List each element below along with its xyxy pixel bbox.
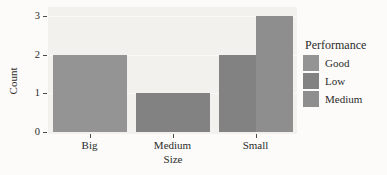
y-axis-title: Count [7, 68, 19, 95]
y-tick-mark-1 [43, 93, 47, 94]
legend-item-good: Good [303, 54, 387, 72]
y-tick-mark-0 [43, 132, 47, 133]
legend-title: Performance [305, 39, 387, 52]
legend-swatch-good [303, 55, 319, 71]
bar-medium-low [136, 93, 210, 132]
bar-chart-figure: Count 0123 BigMediumSmall Size Performan… [0, 0, 387, 175]
x-tick-mark-small [256, 134, 257, 138]
x-tick-mark-big [90, 134, 91, 138]
legend-item-medium: Medium [303, 90, 387, 108]
x-axis-title: Size [143, 153, 203, 165]
legend-swatch-medium [303, 91, 319, 107]
bar-small-medium [256, 16, 293, 132]
legend-item-low: Low [303, 72, 387, 90]
legend-label-good: Good [325, 55, 349, 71]
legend-label-medium: Medium [325, 91, 362, 107]
x-axis-label-small: Small [221, 139, 291, 152]
y-tick-label-0: 0 [22, 126, 40, 138]
x-axis-label-big: Big [55, 139, 125, 152]
legend: Performance GoodLowMedium [303, 39, 387, 108]
bar-big-good [53, 55, 127, 132]
x-axis-label-medium: Medium [138, 139, 208, 152]
legend-items: GoodLowMedium [303, 54, 387, 108]
plot-panel [48, 7, 297, 134]
x-tick-mark-medium [173, 134, 174, 138]
legend-label-low: Low [325, 73, 345, 89]
bar-small-low [219, 55, 256, 132]
y-tick-mark-2 [43, 55, 47, 56]
y-tick-label-2: 2 [22, 49, 40, 61]
y-tick-label-1: 1 [22, 87, 40, 99]
legend-swatch-low [303, 73, 319, 89]
y-tick-label-3: 3 [22, 10, 40, 22]
y-tick-mark-3 [43, 16, 47, 17]
